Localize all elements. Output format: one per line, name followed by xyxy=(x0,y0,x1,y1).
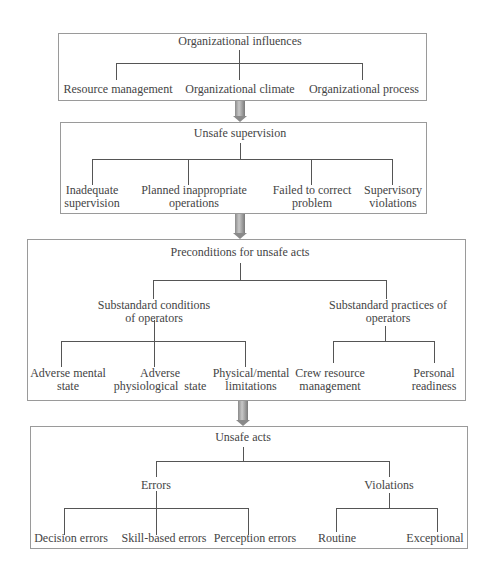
connector-line xyxy=(240,143,241,159)
node-line2: operators xyxy=(322,312,454,325)
connector-line xyxy=(386,280,387,299)
personal-readiness-node: Personal readiness xyxy=(404,367,464,393)
routine-node: Routine xyxy=(312,532,362,545)
connector-line xyxy=(243,447,244,461)
node-line2: state xyxy=(28,380,108,393)
preconditions-title: Preconditions for unsafe acts xyxy=(150,246,330,259)
connector-line xyxy=(92,159,93,185)
exceptional-node: Exceptional xyxy=(404,532,466,545)
connector-line xyxy=(385,326,386,341)
down-arrow-icon xyxy=(233,214,247,239)
connector-line xyxy=(434,341,435,363)
perception-errors-node: Perception errors xyxy=(212,532,298,545)
connector-line xyxy=(188,159,189,185)
organizational-climate-node: Organizational climate xyxy=(180,83,300,96)
connector-line xyxy=(389,461,390,477)
connector-line xyxy=(389,493,390,508)
crew-resource-management-node: Crew resource management xyxy=(292,367,368,393)
node-line2: operations xyxy=(136,197,252,210)
connector-line xyxy=(245,341,246,367)
violations-node: Violations xyxy=(354,479,424,492)
connector-line xyxy=(156,491,157,535)
node-line2: supervision xyxy=(62,197,122,210)
connector-line xyxy=(153,280,154,299)
node-line2: readiness xyxy=(404,380,464,393)
connector-line xyxy=(336,508,438,509)
physical-mental-limitations-node: Physical/mental limitations xyxy=(210,367,292,393)
node-line2: physiological state xyxy=(110,380,210,393)
node-line2: management xyxy=(292,380,368,393)
connector-line xyxy=(311,159,312,185)
substandard-practices-node: Substandard practices of operators xyxy=(322,299,454,325)
connector-line xyxy=(64,508,249,509)
connector-line xyxy=(61,341,62,367)
planned-inappropriate-operations-node: Planned inappropriate operations xyxy=(136,184,252,210)
unsafe-supervision-title: Unsafe supervision xyxy=(160,127,320,140)
connector-line xyxy=(153,280,387,281)
node-line2: limitations xyxy=(210,380,292,393)
connector-line xyxy=(333,341,435,342)
skill-based-errors-node: Skill-based errors xyxy=(118,532,210,545)
connector-line xyxy=(156,461,390,462)
connector-line xyxy=(333,341,334,363)
connector-line xyxy=(362,63,363,80)
supervisory-violations-node: Supervisory violations xyxy=(362,184,424,210)
adverse-mental-state-node: Adverse mental state xyxy=(28,367,108,393)
decision-errors-node: Decision errors xyxy=(32,532,110,545)
unsafe-acts-title: Unsafe acts xyxy=(193,431,293,444)
connector-line xyxy=(61,341,246,342)
resource-management-node: Resource management xyxy=(60,83,176,96)
down-arrow-icon xyxy=(233,101,247,122)
connector-line xyxy=(239,50,240,80)
organizational-process-node: Organizational process xyxy=(303,83,425,96)
organizational-influences-title: Organizational influences xyxy=(140,35,340,48)
connector-line xyxy=(92,159,393,160)
connector-line xyxy=(156,461,157,477)
connector-line xyxy=(116,63,117,80)
inadequate-supervision-node: Inadequate supervision xyxy=(62,184,122,210)
down-arrow-icon xyxy=(236,401,250,426)
connector-line xyxy=(154,320,155,367)
adverse-physiological-state-node: Adverse physiological state xyxy=(110,367,210,393)
connector-line xyxy=(336,508,337,532)
connector-line xyxy=(240,263,241,280)
connector-line xyxy=(437,508,438,532)
node-line2: violations xyxy=(362,197,424,210)
connector-line xyxy=(392,159,393,185)
connector-line xyxy=(116,63,363,64)
node-line2: problem xyxy=(264,197,360,210)
failed-to-correct-problem-node: Failed to correct problem xyxy=(264,184,360,210)
